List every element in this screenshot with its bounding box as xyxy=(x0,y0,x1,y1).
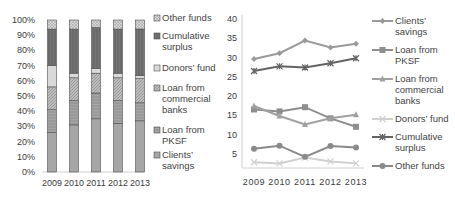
legend-label: Loan from xyxy=(395,44,438,55)
bar-x-axis: 20092010201120122013 xyxy=(42,178,150,188)
bar-segment-loan-from-commercial-banks xyxy=(48,87,57,110)
bar-segment-cumulative-surplus xyxy=(48,29,57,65)
bar-y-tick-label: 90% xyxy=(17,30,35,40)
bar-segment-donors-fund xyxy=(92,69,101,74)
legend-label: Loan from xyxy=(162,82,205,93)
legend-swatch xyxy=(154,65,160,71)
legend-label: Loan from xyxy=(162,124,205,135)
bar-y-tick-label: 20% xyxy=(17,137,35,147)
line-x-tick-label: 2013 xyxy=(345,177,367,187)
bar-y-tick-label: 30% xyxy=(17,121,35,131)
line-legend-item-loan-from-pksf: Loan fromPKSF xyxy=(372,44,438,66)
bar-y-tick-label: 80% xyxy=(17,45,35,55)
bar-segment-cumulative-surplus xyxy=(114,29,123,73)
bar-segment-loan-from-pksf xyxy=(70,101,79,125)
legend-swatch xyxy=(154,33,160,39)
legend-label: Donors’ fund xyxy=(395,113,449,124)
bar-y-tick-label: 60% xyxy=(17,76,35,86)
line-y-tick-label: 40 xyxy=(227,14,237,24)
line-y-tick-label: 15 xyxy=(227,110,237,120)
data-point-circle xyxy=(328,143,334,149)
data-point-diamond xyxy=(328,44,334,50)
bar-legend-item-clients-savings: Clients’savings xyxy=(154,149,194,171)
line-y-tick-label: 5 xyxy=(232,149,237,159)
bar-segment-clients-savings xyxy=(70,125,79,172)
line-series-clients-savings xyxy=(251,38,359,62)
bar-segment-donors-fund xyxy=(48,66,57,87)
data-point-diamond xyxy=(251,56,257,62)
bar-x-tick-label: 2013 xyxy=(130,178,150,188)
bar-segment-other-funds xyxy=(136,20,145,29)
chart-canvas: 0%10%20%30%40%50%60%70%80%90%100% 200920… xyxy=(0,0,455,197)
bar-segment-clients-savings xyxy=(48,132,57,172)
bar-x-tick-label: 2009 xyxy=(42,178,62,188)
legend-label: commercial xyxy=(395,84,444,95)
bar-segment-loan-from-commercial-banks xyxy=(136,79,145,103)
data-point-triangle xyxy=(251,103,257,109)
legend-label: commercial xyxy=(162,93,211,104)
line-y-tick-label: 35 xyxy=(227,33,237,43)
legend-label: PKSF xyxy=(395,55,420,66)
line-x-tick-label: 2009 xyxy=(243,177,265,187)
bar-y-tick-label: 50% xyxy=(17,91,35,101)
data-point-diamond xyxy=(353,41,359,47)
line-y-axis: 510152025303540 xyxy=(227,14,237,159)
legend-label: banks xyxy=(395,95,421,106)
bar-x-tick-label: 2011 xyxy=(86,178,105,188)
data-point-circle xyxy=(251,146,257,152)
legend-swatch xyxy=(154,85,160,91)
line-series-other-funds xyxy=(251,143,359,160)
legend-label: Loan from xyxy=(395,73,438,84)
data-point-circle xyxy=(353,145,359,151)
data-point-circle xyxy=(302,154,308,160)
line-series-cumulative-surplus xyxy=(251,55,359,74)
bar-segment-loan-from-commercial-banks xyxy=(92,73,101,93)
line-legend-item-donors-fund: Donors’ fund xyxy=(372,113,449,124)
line-x-axis: 20092010201120122013 xyxy=(243,177,367,187)
bar-y-tick-label: 100% xyxy=(12,15,35,25)
legend-swatch xyxy=(154,152,160,158)
bar-y-tick-label: 10% xyxy=(17,152,35,162)
legend-label: savings xyxy=(395,26,427,37)
legend-label: Donors’ fund xyxy=(162,62,216,73)
bar-y-tick-label: 40% xyxy=(17,106,35,116)
bar-y-tick-label: 0% xyxy=(22,167,35,177)
legend-label: Clients’ xyxy=(162,149,193,160)
data-point-circle xyxy=(277,143,283,149)
bar-segment-cumulative-surplus xyxy=(92,28,101,69)
bar-legend-item-donors-fund: Donors’ fund xyxy=(154,62,216,73)
legend-swatch xyxy=(154,15,160,21)
bar-legend: Other fundsCumulativesurplusDonors’ fund… xyxy=(154,12,216,171)
legend-label: savings xyxy=(162,160,194,171)
line-chart: 510152025303540 20092010201120122013 Cli… xyxy=(227,14,449,187)
line-y-tick-label: 25 xyxy=(227,72,237,82)
bar-legend-item-cumulative-surplus: Cumulativesurplus xyxy=(154,30,210,52)
legend-marker-square xyxy=(380,47,386,53)
line-legend: Clients’savingsLoan fromPKSFLoan fromcom… xyxy=(372,15,449,171)
line-x-tick-label: 2010 xyxy=(268,177,290,187)
line-marks xyxy=(251,38,359,167)
line-x-tick-label: 2011 xyxy=(294,177,316,187)
legend-label: Cumulative xyxy=(162,30,210,41)
line-legend-item-loan-from-commercial-banks: Loan fromcommercialbanks xyxy=(372,73,444,106)
bar-segment-loan-from-commercial-banks xyxy=(114,78,123,101)
bar-segment-donors-fund xyxy=(70,73,79,78)
line-legend-item-clients-savings: Clients’savings xyxy=(372,15,427,37)
bar-segment-other-funds xyxy=(92,20,101,28)
bar-segment-loan-from-commercial-banks xyxy=(70,78,79,101)
bar-segment-clients-savings xyxy=(114,123,123,172)
legend-label: banks xyxy=(162,104,188,115)
stacked-bar-chart: 0%10%20%30%40%50%60%70%80%90%100% 200920… xyxy=(12,12,216,188)
data-point-square xyxy=(353,124,359,130)
legend-label: Other funds xyxy=(395,160,445,171)
line-legend-item-other-funds: Other funds xyxy=(372,160,445,171)
bar-segment-donors-fund xyxy=(114,73,123,78)
line-y-tick-label: 30 xyxy=(227,53,237,63)
legend-label: Cumulative xyxy=(395,131,443,142)
data-point-square xyxy=(302,104,308,110)
bar-segment-donors-fund xyxy=(136,76,145,79)
bar-segment-loan-from-pksf xyxy=(136,103,145,121)
legend-marker-diamond xyxy=(380,18,386,24)
bar-segment-other-funds xyxy=(48,20,57,29)
bar-segment-cumulative-surplus xyxy=(70,29,79,73)
